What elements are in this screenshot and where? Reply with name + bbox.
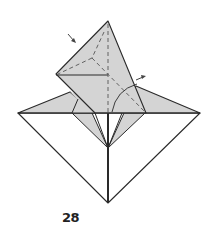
step-number-label: 28 (62, 210, 79, 225)
fold-arrow-icon (136, 75, 146, 80)
push-arrow-icon (68, 34, 76, 43)
origami-diagram (0, 0, 215, 239)
